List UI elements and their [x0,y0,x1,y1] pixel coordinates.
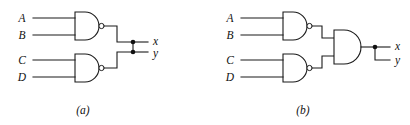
panel-b-nand-gate-cd [283,54,312,82]
circuit-canvas: A B C D x y (a) [0,0,410,125]
panel-a-label-y: y [152,47,159,60]
panel-a: A B C D x y (a) [17,12,159,117]
panel-b-wire-nand-ab-output [312,26,334,38]
inversion-bubble-icon [307,65,312,70]
panel-b-wire-nand-cd-output [312,56,334,68]
panel-a-label-b: B [18,29,25,41]
inversion-bubble-icon [307,23,312,28]
panel-a-label-c: C [18,54,26,66]
and-shape-body [75,54,99,82]
panel-b: A B C D x y (b) [225,12,401,117]
panel-b-label-b: B [226,29,233,41]
panel-b-and-gate-out [334,30,361,64]
and-shape-body [283,54,307,82]
panel-b-label-c: C [226,54,234,66]
panel-b-label-d: D [225,71,235,83]
panel-b-label-a: A [225,12,234,24]
panel-b-nand-gate-ab [283,12,312,40]
inversion-bubble-icon [99,23,104,28]
panel-b-wire-output-y [375,47,390,60]
panel-a-nand-gate-ab [75,12,104,40]
and-shape-body [75,12,99,40]
panel-a-nand-gate-cd [75,54,104,82]
and-shape-body [334,30,361,64]
panel-a-label-x: x [152,35,159,47]
logic-circuit-figure: A B C D x y (a) [0,0,410,125]
inversion-bubble-icon [99,65,104,70]
and-shape-body [283,12,307,40]
panel-a-label-a: A [17,12,26,24]
panel-b-label-x: x [394,40,401,52]
panel-b-caption: (b) [296,104,310,117]
panel-b-junction-dot [373,45,378,50]
panel-a-junction-dot-y [131,50,136,55]
panel-a-wire-nand-ab-output [104,26,133,42]
panel-b-label-y: y [394,54,401,67]
panel-a-junction-dot-x [131,40,136,45]
panel-a-caption: (a) [76,104,90,117]
panel-a-label-d: D [17,71,27,83]
panel-a-wire-nand-cd-output [104,52,133,68]
